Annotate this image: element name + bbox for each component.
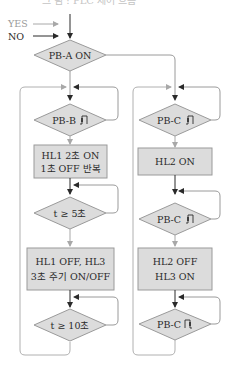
decision-pb-c-rising-1: PB-C — [139, 104, 211, 136]
decision-pb-c-falling: PB-C — [139, 309, 211, 340]
svg-text:PB-C: PB-C — [157, 319, 181, 330]
legend-no-label: NO — [8, 31, 24, 42]
legend-yes-label: YES — [7, 18, 28, 29]
process-hl2-off-hl3-on: HL2 OFF HL3 ON — [138, 248, 212, 290]
svg-text:PB-B: PB-B — [52, 115, 76, 126]
svg-text:1초 OFF 반복: 1초 OFF 반복 — [40, 163, 100, 174]
decision-pb-b-rising: PB-B — [34, 104, 106, 136]
pb-a-yes-line — [106, 55, 175, 100]
decision-t-ge-5: t ≥ 5초 — [34, 197, 106, 229]
svg-text:HL1 OFF, HL3: HL1 OFF, HL3 — [36, 256, 106, 267]
decision-pb-c-rising-2: PB-C — [139, 203, 211, 235]
process-hl2-on: HL2 ON — [138, 148, 212, 175]
svg-text:HL1 2초 ON: HL1 2초 ON — [42, 150, 100, 161]
decision-t-ge-10: t ≥ 10초 — [34, 309, 106, 341]
process-hl3-blink: HL1 OFF, HL3 3초 주기 ON/OFF — [27, 248, 114, 290]
process-hl1-blink: HL1 2초 ON 1초 OFF 반복 — [34, 145, 107, 178]
svg-text:HL3 ON: HL3 ON — [155, 271, 195, 282]
decision-pb-a-on: PB-A ON — [34, 40, 106, 71]
svg-text:HL2 ON: HL2 ON — [155, 156, 195, 167]
figure-title: 그 림 : PLC 제어 흐름 — [42, 0, 136, 6]
svg-text:t ≥ 5초: t ≥ 5초 — [54, 208, 87, 219]
svg-text:HL2 OFF: HL2 OFF — [153, 256, 198, 267]
legend: YES NO — [7, 18, 58, 42]
svg-text:t ≥ 10초: t ≥ 10초 — [51, 320, 90, 331]
flowchart: 그 림 : PLC 제어 흐름 YES NO PB-A ON PB-B HL1 … — [0, 0, 240, 371]
svg-text:PB-C: PB-C — [157, 214, 181, 225]
svg-text:PB-C: PB-C — [157, 115, 181, 126]
svg-text:3초 주기 ON/OFF: 3초 주기 ON/OFF — [31, 271, 111, 282]
svg-text:PB-A ON: PB-A ON — [49, 50, 92, 61]
